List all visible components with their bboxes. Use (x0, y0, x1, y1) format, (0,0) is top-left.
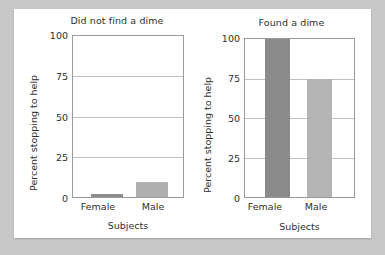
y-tick-label: 25 (214, 153, 240, 164)
y-tick-label: 50 (214, 113, 240, 124)
chart-title: Found a dime (192, 17, 381, 28)
bars-layer (245, 39, 354, 197)
bar-female[interactable] (91, 194, 123, 197)
y-tick-label: 0 (214, 193, 240, 204)
x-tick-label-male: Male (131, 201, 175, 212)
chart-found-a-dime: Found a dime Percent stopping to help 10… (192, 9, 371, 238)
charts-row: Did not find a dime Percent stopping to … (14, 9, 371, 238)
y-tick-label: 75 (42, 70, 68, 81)
bar-male[interactable] (307, 79, 332, 198)
y-axis-label: Percent stopping to help (28, 75, 39, 191)
y-axis-label: Percent stopping to help (202, 77, 213, 193)
x-axis-label: Subjects (72, 220, 184, 231)
bars-layer (73, 36, 183, 197)
y-tick-label: 25 (42, 152, 68, 163)
y-tick-label: 75 (214, 73, 240, 84)
y-tick-label: 100 (214, 33, 240, 44)
y-tick-label: 50 (42, 111, 68, 122)
y-tick-label: 0 (42, 193, 68, 204)
figure-panel: Did not find a dime Percent stopping to … (14, 9, 371, 238)
bar-male[interactable] (136, 182, 168, 197)
x-tick-label-female: Female (72, 201, 124, 212)
figure-frame: Did not find a dime Percent stopping to … (0, 0, 385, 255)
x-tick-label-female: Female (241, 201, 289, 212)
x-axis-label: Subjects (244, 221, 355, 232)
chart-did-not-find-a-dime: Did not find a dime Percent stopping to … (14, 9, 192, 238)
plot-area (244, 38, 355, 198)
plot-area (72, 35, 184, 198)
x-tick-label-male: Male (296, 201, 336, 212)
bar-female[interactable] (265, 39, 290, 197)
chart-title: Did not find a dime (14, 15, 206, 26)
y-tick-label: 100 (42, 30, 68, 41)
